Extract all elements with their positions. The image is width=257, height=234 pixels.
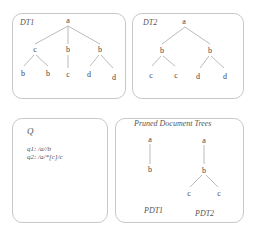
pdt2-node-c-right: c [217,189,221,198]
pruned-edges [0,0,257,234]
pdt1-node-b: b [148,165,152,174]
pdt2-label: PDT2 [195,209,214,218]
pdt1-node-a: a [148,135,152,144]
pdt1-label: PDT1 [144,206,163,215]
pdt2-node-c-left: c [187,189,191,198]
pdt2-node-b: b [202,166,206,175]
pdt2-node-a: a [202,136,206,145]
